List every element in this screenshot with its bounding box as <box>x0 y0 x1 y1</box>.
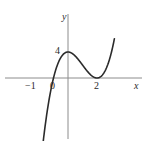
x-axis-label: x <box>134 81 138 91</box>
cubic-function-graph: −1 0 2 4 x y <box>0 0 149 141</box>
x-tick-label-zero: 0 <box>50 81 55 91</box>
y-axis-label: y <box>62 12 66 22</box>
y-tick-label-four: 4 <box>55 46 60 56</box>
plot-canvas <box>0 0 149 141</box>
x-tick-label-neg-one: −1 <box>25 81 36 91</box>
x-tick-label-two: 2 <box>94 81 99 91</box>
